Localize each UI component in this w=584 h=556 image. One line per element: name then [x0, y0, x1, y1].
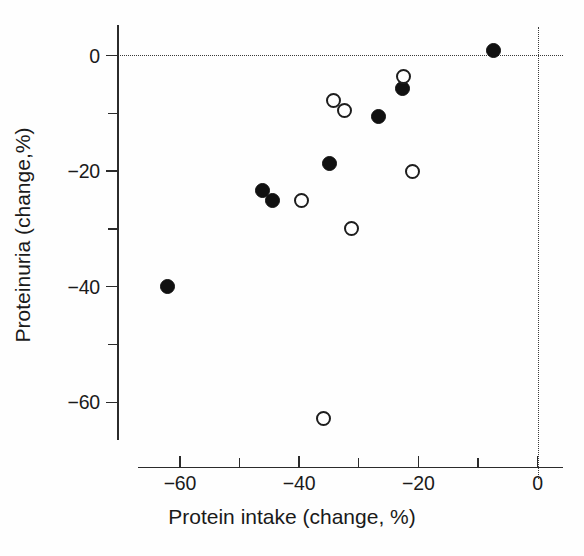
y-tick-label: 0: [89, 44, 100, 67]
data-point-filled: [486, 43, 501, 58]
y-tick: [106, 55, 117, 57]
x-tick: [477, 458, 479, 467]
y-tick: [108, 228, 117, 230]
y-tick-label: −20: [68, 160, 100, 183]
y-tick-label: −60: [68, 391, 100, 414]
x-axis-line: [138, 467, 563, 469]
x-tick: [298, 456, 300, 467]
x-tick: [537, 456, 539, 467]
y-axis-line: [117, 25, 119, 440]
zero-reference-line-vertical: [538, 27, 539, 479]
data-point-open: [294, 193, 309, 208]
data-point-open: [405, 164, 420, 179]
data-point-filled: [371, 109, 386, 124]
data-point-open: [396, 69, 411, 84]
y-tick: [106, 286, 117, 288]
x-tick: [179, 456, 181, 467]
x-tick-label: −40: [283, 472, 315, 495]
data-point-filled: [160, 279, 175, 294]
x-axis-title: Protein intake (change, %): [0, 505, 584, 529]
data-point-open: [337, 103, 352, 118]
x-tick: [358, 458, 360, 467]
y-tick: [108, 113, 117, 115]
scatter-plot-figure: 0−20−40−60−60−40−200 Proteinuria (change…: [0, 0, 584, 556]
y-axis-title-container: Proteinuria (change,%): [0, 0, 46, 470]
x-tick: [239, 458, 241, 467]
x-tick-label: −20: [402, 472, 434, 495]
data-point-open: [316, 411, 331, 426]
data-point-filled: [265, 193, 280, 208]
x-tick-label: 0: [532, 472, 543, 495]
x-tick-label: −60: [164, 472, 196, 495]
y-tick: [106, 402, 117, 404]
data-point-open: [344, 221, 359, 236]
data-point-filled: [322, 156, 337, 171]
y-tick: [108, 344, 117, 346]
y-tick: [106, 170, 117, 172]
x-tick: [418, 456, 420, 467]
y-tick-label: −40: [68, 275, 100, 298]
y-axis-title: Proteinuria (change,%): [11, 128, 35, 343]
